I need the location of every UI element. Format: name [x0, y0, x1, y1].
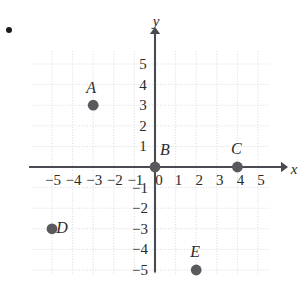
point-label-e: E — [190, 244, 200, 260]
y-axis-label: y — [153, 14, 160, 29]
point-label-b: B — [160, 142, 170, 158]
y-tick-label--1: −1 — [132, 180, 148, 195]
gridlines — [33, 51, 269, 274]
point-label-d: D — [56, 220, 68, 236]
y-tick-label--4: −4 — [132, 242, 148, 257]
x-tick-label--3: −3 — [86, 173, 102, 188]
y-tick-label-1: 1 — [139, 139, 147, 154]
x-tick-label-4: 4 — [237, 173, 245, 188]
x-tick-label--2: −2 — [107, 173, 123, 188]
y-tick-label-4: 4 — [139, 77, 147, 92]
x-tick-label-3: 3 — [216, 173, 224, 188]
x-tick-label-2: 2 — [195, 173, 203, 188]
y-tick-label-5: 5 — [139, 57, 147, 72]
x-axis-label: x — [291, 162, 298, 177]
y-tick-label-2: 2 — [139, 118, 147, 133]
coordinate-plane-figure: ABCDE−5−4−3−2−101234554321−1−2−3−4−5xy — [0, 0, 304, 302]
x-tick-label-1: 1 — [175, 173, 183, 188]
y-tick-label--5: −5 — [132, 263, 148, 278]
x-tick-label-0: 0 — [155, 173, 163, 188]
y-tick-label-3: 3 — [139, 98, 147, 113]
plot-canvas — [0, 0, 304, 302]
x-tick-label-5: 5 — [257, 173, 265, 188]
data-point-a — [88, 100, 99, 111]
data-point-e — [191, 265, 202, 276]
point-label-a: A — [86, 80, 96, 96]
y-tick-label--2: −2 — [132, 201, 148, 216]
point-label-c: C — [231, 141, 242, 157]
x-tick-label--5: −5 — [45, 173, 61, 188]
y-tick-label--3: −3 — [132, 221, 148, 236]
x-tick-label--4: −4 — [66, 173, 82, 188]
x-axis-arrowhead — [281, 162, 288, 172]
